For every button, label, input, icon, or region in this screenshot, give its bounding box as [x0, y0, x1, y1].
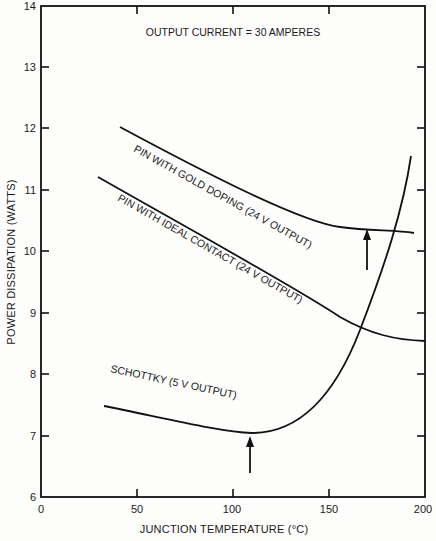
x-axis-title: JUNCTION TEMPERATURE (°C) — [140, 523, 309, 535]
label-schottky: SCHOTTKY (5 V OUTPUT) — [110, 362, 238, 401]
svg-text:200: 200 — [414, 503, 432, 515]
curve-pin-ideal-contact — [98, 177, 425, 341]
svg-text:8: 8 — [30, 368, 36, 380]
svg-text:0: 0 — [38, 503, 44, 515]
svg-text:12: 12 — [24, 122, 36, 134]
svg-text:6: 6 — [30, 491, 36, 503]
x-ticks — [137, 6, 329, 497]
chart-title: OUTPUT CURRENT = 30 AMPERES — [146, 26, 320, 38]
svg-text:11: 11 — [25, 184, 36, 196]
label-pin-ideal-contact: PIN WITH IDEAL CONTACT (24 V OUTPUT) — [116, 191, 305, 305]
svg-text:150: 150 — [320, 503, 338, 515]
svg-text:100: 100 — [223, 503, 241, 515]
svg-text:10: 10 — [24, 245, 36, 257]
chart: 6 7 8 9 10 11 12 13 14 0 50 100 150 200 … — [0, 0, 436, 541]
arrow-up-icon — [246, 436, 254, 473]
svg-text:13: 13 — [24, 61, 36, 73]
y-tick-labels: 6 7 8 9 10 11 12 13 14 — [24, 0, 36, 503]
arrow-up-icon — [363, 229, 371, 270]
svg-text:14: 14 — [24, 0, 36, 12]
svg-text:9: 9 — [30, 307, 36, 319]
label-pin-gold-doping: PIN WITH GOLD DOPING (24 V OUTPUT) — [132, 142, 314, 250]
svg-text:50: 50 — [131, 503, 143, 515]
y-axis-title: POWER DISSIPATION (WATTS) — [5, 179, 17, 344]
x-tick-labels: 0 50 100 150 200 — [38, 503, 432, 515]
svg-text:7: 7 — [30, 430, 36, 442]
